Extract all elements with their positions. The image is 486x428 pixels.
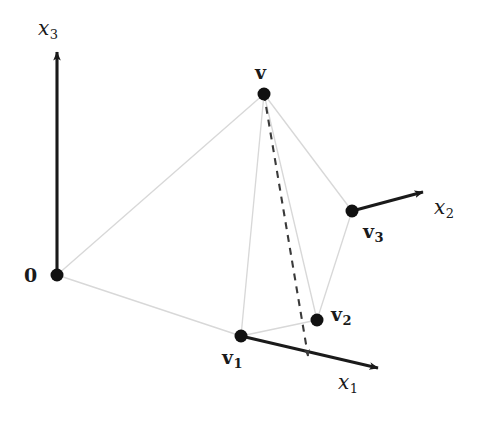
axis-label-x3: x3 <box>38 18 58 41</box>
axis-label-x3-base: x <box>38 16 49 40</box>
point-label-v: v <box>255 63 266 82</box>
dot-origin <box>51 269 64 282</box>
point-label-origin: 0 <box>24 266 37 285</box>
axes <box>57 52 423 368</box>
vector-simplex-figure: x3 x2 x1 0 v v1 v2 v3 <box>0 0 486 428</box>
point-label-origin-text: 0 <box>24 264 37 286</box>
point-label-v1: v1 <box>222 348 243 370</box>
axis-line-x2 <box>352 192 423 211</box>
dot-v3 <box>346 205 359 218</box>
edge-v-to-v2 <box>264 94 317 320</box>
axis-label-x1-base: x <box>338 370 349 394</box>
axis-label-x1-subscript: 1 <box>350 381 358 396</box>
simplex-edges <box>57 94 352 336</box>
point-label-v3-base: v <box>363 220 374 242</box>
projection-lines <box>264 94 308 356</box>
point-label-v2-subscript: 2 <box>343 313 352 328</box>
axis-label-x2-base: x <box>434 195 445 219</box>
dashed-line-v-projection <box>264 94 308 356</box>
axis-line-x1 <box>241 336 378 368</box>
point-label-v1-base: v <box>222 346 233 368</box>
point-label-v1-subscript: 1 <box>234 356 243 371</box>
edge-origin-to-v <box>57 94 264 275</box>
point-label-v3: v3 <box>363 222 384 244</box>
edge-v1-to-v2 <box>241 320 317 336</box>
axis-label-x1: x1 <box>338 372 358 395</box>
point-label-v3-subscript: 3 <box>375 230 384 245</box>
axis-label-x2: x2 <box>434 197 454 220</box>
dot-v1 <box>235 330 248 343</box>
edge-origin-to-v1 <box>57 275 241 336</box>
point-label-v2-base: v <box>331 303 342 325</box>
point-label-v-base: v <box>255 61 266 83</box>
dot-v <box>258 88 271 101</box>
axis-label-x2-subscript: 2 <box>446 206 454 221</box>
edge-v-to-v1 <box>241 94 264 336</box>
dot-v2 <box>311 314 324 327</box>
vertex-dots <box>51 88 359 343</box>
point-label-v2: v2 <box>331 305 352 327</box>
figure-canvas <box>0 0 486 428</box>
axis-label-x3-subscript: 3 <box>50 27 58 42</box>
